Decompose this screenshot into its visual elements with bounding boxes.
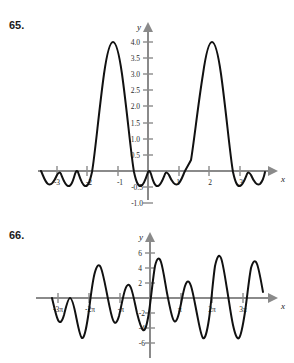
chart-66: 6 4 2 -2 -4 -6 -3π -2π -π π 2π 3π y x [0,220,294,363]
y-tick-label-66-2: 2 [138,279,142,288]
chart-65: 4.0 3.5 3.0 2.5 2.0 1.5 1.0 0.5 -0.5 -1.… [0,0,294,220]
x-axis-arrow-66 [268,293,278,303]
y-tick-label-65-3.5: 3.5 [131,54,141,63]
chart-65-svg: 4.0 3.5 3.0 2.5 2.0 1.5 1.0 0.5 -0.5 -1.… [0,0,294,220]
y-axis-arrow-66 [145,232,155,242]
problem-66: 66. [0,220,294,363]
y-tick-label-65-1.5: 1.5 [131,119,141,128]
y-tick-label-65-2.5: 2.5 [131,86,141,95]
y-tick-label-65-3.0: 3.0 [131,70,141,79]
x-axis-label-66: x [280,301,285,311]
x-axis-arrow-65 [268,166,278,176]
curve-65 [41,42,265,186]
y-tick-label-66-4: 4 [138,264,142,273]
y-tick-label-66-neg6: -6 [139,339,145,348]
chart-66-svg: 6 4 2 -2 -4 -6 -3π -2π -π π 2π 3π y x [0,220,294,363]
y-tick-label-65-4.0: 4.0 [131,38,141,47]
y-axis-arrow-65 [143,22,153,32]
x-tick-label-65-neg1: -1 [117,178,123,187]
y-tick-label-65-2.0: 2.0 [131,102,141,111]
y-tick-label-65-neg1.0: -1.0 [131,199,143,208]
y-tick-label-65-1.0: 1.0 [131,135,141,144]
x-tick-label-65-2: 2 [208,178,212,187]
y-axis-label-66: y [138,232,143,242]
y-tick-label-66-neg2: -2 [139,309,145,318]
x-axis-label-65: x [280,174,285,184]
y-tick-label-66-6: 6 [138,249,142,258]
y-axis-label-65: y [136,22,141,32]
problem-65: 65. [0,0,294,220]
